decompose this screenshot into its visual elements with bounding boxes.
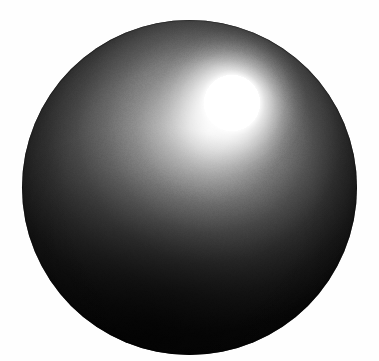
limb-darkening-layer bbox=[22, 20, 357, 355]
sphere bbox=[22, 20, 357, 355]
lower-shadow-layer bbox=[22, 20, 357, 355]
sphere-render-canvas bbox=[0, 0, 379, 361]
render-noise-layer bbox=[22, 20, 357, 355]
specular-highlight bbox=[22, 20, 357, 355]
diffuse-spread-layer bbox=[22, 20, 357, 355]
diffuse-falloff-layer bbox=[22, 20, 357, 355]
